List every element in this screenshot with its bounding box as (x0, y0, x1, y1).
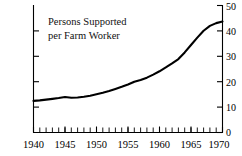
chart-title-line-2: per Farm Worker (48, 30, 120, 41)
ytick-label-50: 50 (226, 1, 236, 12)
y-axis-ticks (217, 6, 223, 133)
ytick-label-10: 10 (226, 102, 236, 113)
chart-figure: Persons Supported per Farm Worker 50 40 … (0, 0, 242, 156)
xtick-label-1940: 1940 (23, 139, 44, 150)
chart-title-line-1: Persons Supported (48, 16, 127, 27)
ytick-label-20: 20 (226, 77, 236, 88)
xtick-label-1950: 1950 (86, 139, 107, 150)
xtick-label-1960: 1960 (149, 139, 170, 150)
xtick-label-1955: 1955 (118, 139, 139, 150)
x-axis-labels: 1940 1945 1950 1955 1960 1965 1970 (23, 139, 230, 150)
line-chart: Persons Supported per Farm Worker 50 40 … (0, 0, 242, 156)
x-axis-major-ticks (34, 127, 223, 133)
y-axis-left-ticks (34, 31, 40, 107)
ytick-label-40: 40 (226, 26, 236, 37)
xtick-label-1970: 1970 (209, 139, 230, 150)
xtick-label-1945: 1945 (55, 139, 76, 150)
ytick-label-0: 0 (226, 127, 231, 138)
xtick-label-1965: 1965 (181, 139, 202, 150)
y-axis-labels: 50 40 30 20 10 0 (226, 1, 236, 139)
ytick-label-30: 30 (226, 51, 236, 62)
